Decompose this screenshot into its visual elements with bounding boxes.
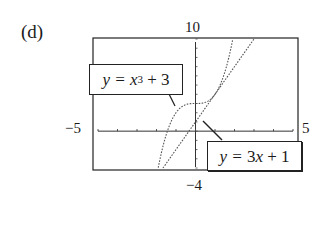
- eq-lhs: y =: [102, 71, 125, 88]
- cubic-label-pointer: [169, 94, 175, 106]
- eq-rest: + 3: [143, 71, 170, 88]
- eq-var: x: [255, 148, 263, 165]
- eq-var: x: [130, 71, 138, 88]
- linear-equation-label: y = 3x + 1: [207, 141, 302, 171]
- eq-rest: + 1: [263, 148, 290, 165]
- cubic-equation-label: y = x3 + 3: [89, 64, 183, 95]
- eq-lhs: y =: [219, 148, 242, 165]
- linear-label-pointer: [203, 121, 222, 140]
